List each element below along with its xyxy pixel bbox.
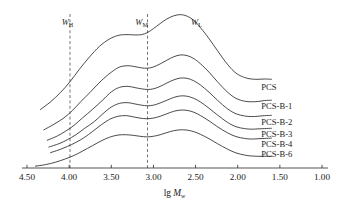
x-tick-label-0: 4.50 [19,172,35,182]
annotation-wm: WM [135,17,148,28]
x-tick-label-6: 1.50 [272,172,288,182]
x-axis-group: 4.504.003.503.002.502.001.501.00 [19,165,330,182]
annotation-wh: WH [62,17,74,28]
x-tick-label-5: 2.00 [230,172,246,182]
series-label-pcs-b-4: PCS-B-4 [261,139,293,149]
x-tick-label-2: 3.50 [103,172,119,182]
curve-pcs-b-1 [44,55,272,130]
x-axis-title: lg Mw [164,188,186,199]
x-tick-label-7: 1.00 [314,172,330,182]
chart-canvas: PCSPCS-B-1PCS-B-2PCS-B-3PCS-B-4PCS-B-6WH… [0,0,339,205]
annotation-wl: WL [191,17,202,28]
series-label-pcs-b-6: PCS-B-6 [261,149,293,159]
series-labels-group: PCSPCS-B-1PCS-B-2PCS-B-3PCS-B-4PCS-B-6 [261,82,293,159]
curve-pcs-b-6 [35,130,271,166]
x-tick-label-4: 2.50 [188,172,204,182]
curve-pcs [40,15,271,110]
x-tick-label-1: 4.00 [61,172,77,182]
series-label-pcs: PCS [261,82,277,92]
curves-group [35,15,271,167]
series-label-pcs-b-1: PCS-B-1 [261,101,292,111]
guide-lines-group [70,14,148,168]
series-label-pcs-b-2: PCS-B-2 [261,117,292,127]
curve-pcs-b-3 [49,96,272,147]
annotations-group: WHWMWL [62,17,202,28]
molecular-weight-distribution-chart: PCSPCS-B-1PCS-B-2PCS-B-3PCS-B-4PCS-B-6WH… [0,0,339,205]
x-tick-label-3: 3.00 [145,172,161,182]
